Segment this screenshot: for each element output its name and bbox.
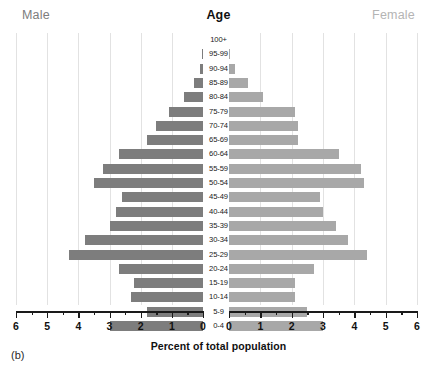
panel-letter: (b) (11, 349, 24, 361)
age-group-label: 70-74 (0, 119, 437, 133)
tick-minor-male-5 (32, 311, 33, 315)
tick-major-female-4 (354, 311, 355, 318)
population-pyramid-plot: 100+95-9990-9485-8980-8475-7970-7465-696… (0, 33, 437, 305)
age-group-label: 100+ (0, 33, 437, 47)
pyramid-row: 60-64 (0, 147, 437, 161)
age-group-label: 45-49 (0, 190, 437, 204)
tick-major-female-0 (229, 311, 230, 318)
x-tick-label-female-3: 3 (313, 320, 333, 332)
pyramid-row: 55-59 (0, 162, 437, 176)
age-group-label: 60-64 (0, 147, 437, 161)
age-group-label: 35-39 (0, 219, 437, 233)
pyramid-row: 90-94 (0, 62, 437, 76)
tick-major-female-6 (417, 311, 418, 318)
x-tick-label-female-2: 2 (282, 320, 302, 332)
pyramid-row: 50-54 (0, 176, 437, 190)
pyramid-row: 25-29 (0, 248, 437, 262)
tick-minor-male-1 (156, 311, 157, 315)
x-tick-label-male-6: 6 (6, 320, 26, 332)
age-group-label: 10-14 (0, 290, 437, 304)
tick-major-female-3 (323, 311, 324, 318)
tick-minor-male-2 (125, 311, 126, 315)
pyramid-rows: 100+95-9990-9485-8980-8475-7970-7465-696… (0, 33, 437, 305)
x-tick-label-female-4: 4 (344, 320, 364, 332)
x-tick-label-female-0: 0 (219, 320, 239, 332)
pyramid-row: 10-14 (0, 290, 437, 304)
age-group-label: 80-84 (0, 90, 437, 104)
pyramid-row: 30-34 (0, 233, 437, 247)
pyramid-row: 20-24 (0, 262, 437, 276)
pyramid-row: 80-84 (0, 90, 437, 104)
tick-major-female-1 (260, 311, 261, 318)
pyramid-row: 40-44 (0, 205, 437, 219)
tick-major-male-1 (172, 311, 173, 318)
x-tick-label-male-3: 3 (100, 320, 120, 332)
tick-minor-male-0 (187, 311, 188, 315)
x-tick-label-male-2: 2 (131, 320, 151, 332)
tick-major-male-6 (16, 311, 17, 318)
pyramid-row: 85-89 (0, 76, 437, 90)
x-tick-label-male-1: 1 (162, 320, 182, 332)
tick-major-male-2 (141, 311, 142, 318)
age-group-label: 95-99 (0, 47, 437, 61)
tick-minor-female-4 (370, 311, 371, 315)
pyramid-row: 100+ (0, 33, 437, 47)
tick-minor-male-4 (63, 311, 64, 315)
age-group-label: 90-94 (0, 62, 437, 76)
age-group-label: 20-24 (0, 262, 437, 276)
tick-major-female-5 (386, 311, 387, 318)
x-tick-label-female-6: 6 (407, 320, 427, 332)
age-group-label: 15-19 (0, 276, 437, 290)
tick-major-male-3 (110, 311, 111, 318)
x-tick-label-female-1: 1 (250, 320, 270, 332)
tick-minor-female-5 (401, 311, 402, 315)
tick-major-male-5 (47, 311, 48, 318)
tick-minor-female-0 (245, 311, 246, 315)
age-group-label: 55-59 (0, 162, 437, 176)
x-axis-label: Percent of total population (0, 340, 437, 352)
tick-minor-female-2 (307, 311, 308, 315)
tick-minor-male-3 (94, 311, 95, 315)
tick-minor-female-3 (339, 311, 340, 315)
tick-minor-female-1 (276, 311, 277, 315)
age-group-label: 25-29 (0, 248, 437, 262)
x-tick-label-male-4: 4 (68, 320, 88, 332)
tick-major-male-0 (203, 311, 204, 318)
x-tick-label-male-0: 0 (193, 320, 213, 332)
pyramid-row: 15-19 (0, 276, 437, 290)
chart-header: Male Age Female (0, 8, 437, 26)
pyramid-row: 70-74 (0, 119, 437, 133)
age-group-label: 30-34 (0, 233, 437, 247)
age-group-label: 40-44 (0, 205, 437, 219)
pyramid-row: 45-49 (0, 190, 437, 204)
age-group-label: 85-89 (0, 76, 437, 90)
pyramid-row: 35-39 (0, 219, 437, 233)
pyramid-row: 65-69 (0, 133, 437, 147)
pyramid-row: 75-79 (0, 105, 437, 119)
age-group-label: 65-69 (0, 133, 437, 147)
pyramid-row: 95-99 (0, 47, 437, 61)
tick-major-male-4 (78, 311, 79, 318)
age-group-label: 75-79 (0, 105, 437, 119)
x-tick-label-male-5: 5 (37, 320, 57, 332)
tick-major-female-2 (292, 311, 293, 318)
age-group-label: 50-54 (0, 176, 437, 190)
x-tick-label-female-5: 5 (376, 320, 396, 332)
female-legend-label: Female (372, 8, 415, 22)
